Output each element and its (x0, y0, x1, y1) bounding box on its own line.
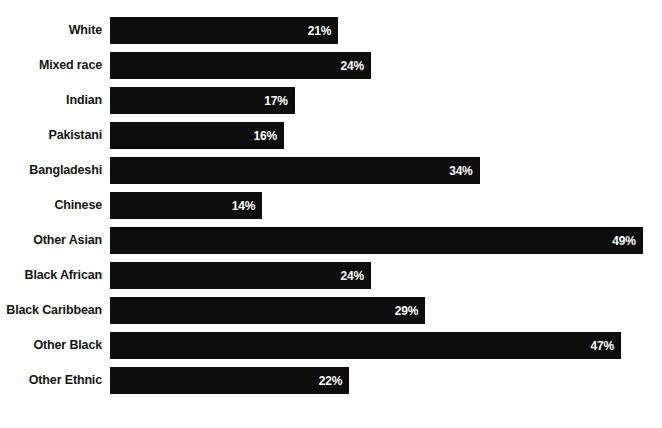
category-label: Other Ethnic (0, 367, 102, 394)
category-label: Chinese (0, 192, 102, 219)
bar-value-label: 24% (340, 269, 370, 283)
bar: 24% (110, 262, 371, 289)
bar-track: 16% (110, 122, 662, 149)
bar-row: Other Black47% (0, 332, 662, 359)
bar-track: 34% (110, 157, 662, 184)
bar-row: Mixed race24% (0, 52, 662, 79)
bar-value-label: 21% (308, 24, 338, 38)
bar-value-label: 34% (449, 164, 479, 178)
bar: 22% (110, 367, 349, 394)
bar-track: 49% (110, 227, 662, 254)
bar-row: Indian17% (0, 87, 662, 114)
bar: 24% (110, 52, 371, 79)
bar-value-label: 47% (590, 339, 620, 353)
bar-value-label: 24% (340, 59, 370, 73)
bar: 34% (110, 157, 480, 184)
bar-value-label: 14% (232, 199, 262, 213)
bar-row: Other Asian49% (0, 227, 662, 254)
bar-track: 47% (110, 332, 662, 359)
bar-track: 29% (110, 297, 662, 324)
bar-row: Other Ethnic22% (0, 367, 662, 394)
bar-row: Chinese14% (0, 192, 662, 219)
bar-row: Black African24% (0, 262, 662, 289)
category-label: Black African (0, 262, 102, 289)
bar: 14% (110, 192, 262, 219)
bar-track: 14% (110, 192, 662, 219)
bar: 17% (110, 87, 295, 114)
bar-value-label: 17% (264, 94, 294, 108)
bar-track: 22% (110, 367, 662, 394)
bar: 47% (110, 332, 621, 359)
bar-value-label: 29% (395, 304, 425, 318)
category-label: White (0, 17, 102, 44)
bar: 16% (110, 122, 284, 149)
bar-track: 21% (110, 17, 662, 44)
bar-row: White21% (0, 17, 662, 44)
category-label: Bangladeshi (0, 157, 102, 184)
bar-row: Bangladeshi34% (0, 157, 662, 184)
category-label: Indian (0, 87, 102, 114)
bar-row: Black Caribbean29% (0, 297, 662, 324)
category-label: Other Black (0, 332, 102, 359)
category-label: Black Caribbean (0, 297, 102, 324)
bar-track: 24% (110, 262, 662, 289)
bar-chart: White21%Mixed race24%Indian17%Pakistani1… (0, 0, 662, 428)
bar-value-label: 22% (319, 374, 349, 388)
bar-row: Pakistani16% (0, 122, 662, 149)
category-label: Mixed race (0, 52, 102, 79)
bar: 29% (110, 297, 425, 324)
category-label: Pakistani (0, 122, 102, 149)
bar-track: 24% (110, 52, 662, 79)
bar: 49% (110, 227, 643, 254)
bar-value-label: 49% (612, 234, 642, 248)
bar-track: 17% (110, 87, 662, 114)
bar-value-label: 16% (253, 129, 283, 143)
bar-rows-container: White21%Mixed race24%Indian17%Pakistani1… (0, 17, 662, 402)
category-label: Other Asian (0, 227, 102, 254)
bar: 21% (110, 17, 338, 44)
